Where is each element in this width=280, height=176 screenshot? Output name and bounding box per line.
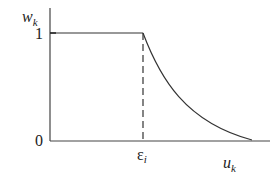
y-tick-label-0: 0 (35, 132, 43, 149)
series-decay-curve (143, 33, 252, 140)
x-tick-label-epsilon: εi (137, 146, 147, 165)
chart-canvas: wk 1 0 εi uk (0, 0, 280, 176)
y-tick-label-1: 1 (35, 25, 43, 42)
x-axis-label: uk (223, 154, 237, 174)
